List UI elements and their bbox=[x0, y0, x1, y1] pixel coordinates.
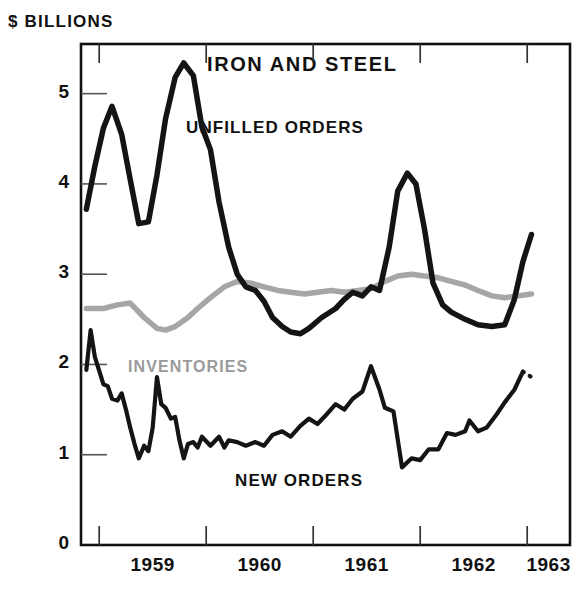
plot-area bbox=[0, 0, 582, 597]
chart-container: $ BILLIONS IRON AND STEEL UNFILLED ORDER… bbox=[0, 0, 582, 597]
y-tick-label-1: 1 bbox=[43, 442, 69, 464]
x-tick-label-1960: 1960 bbox=[220, 554, 300, 576]
series-line-new-orders bbox=[86, 330, 523, 467]
y-tick-label-3: 3 bbox=[43, 261, 69, 283]
y-tick-label-0: 0 bbox=[43, 532, 69, 554]
y-tick-label-5: 5 bbox=[43, 81, 69, 103]
y-tick-label-4: 4 bbox=[43, 171, 69, 193]
data-series bbox=[86, 63, 531, 467]
x-tick-label-1963: 1963 bbox=[509, 554, 582, 576]
series-dotted-tail-new-orders bbox=[523, 372, 532, 377]
x-tick-label-1962: 1962 bbox=[434, 554, 514, 576]
x-tick-label-1961: 1961 bbox=[327, 554, 407, 576]
x-tick-label-1959: 1959 bbox=[113, 554, 193, 576]
y-tick-label-2: 2 bbox=[43, 351, 69, 373]
